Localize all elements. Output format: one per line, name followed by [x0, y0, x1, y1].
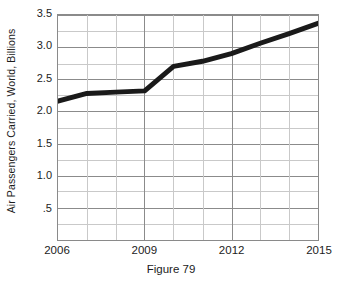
y-tick-label: 2.5 [37, 73, 52, 84]
x-tick-label: 2009 [132, 244, 158, 256]
figure-container: Air Passengers Carried, World, Billions … [0, 0, 342, 283]
y-axis-title-text: Air Passengers Carried, World, Billions [5, 29, 17, 214]
y-tick-label: .5 [43, 203, 52, 214]
y-tick-label: 1.5 [37, 138, 52, 149]
y-axis-tick-labels: .51.01.52.02.53.03.5 [22, 0, 55, 250]
y-tick-label: 3.5 [37, 8, 52, 19]
y-tick-label: 1.0 [37, 170, 52, 181]
data-series-line [58, 15, 318, 240]
plot-area [57, 14, 319, 241]
x-axis-tick-labels: 2006200920122015 [0, 244, 342, 264]
y-tick-label: 3.0 [37, 40, 52, 51]
x-tick-label: 2006 [44, 244, 70, 256]
y-tick-label: 2.0 [37, 105, 52, 116]
figure-caption: Figure 79 [0, 263, 342, 275]
x-tick-label: 2012 [219, 244, 245, 256]
y-axis-title: Air Passengers Carried, World, Billions [0, 0, 22, 242]
x-tick-label: 2015 [306, 244, 332, 256]
